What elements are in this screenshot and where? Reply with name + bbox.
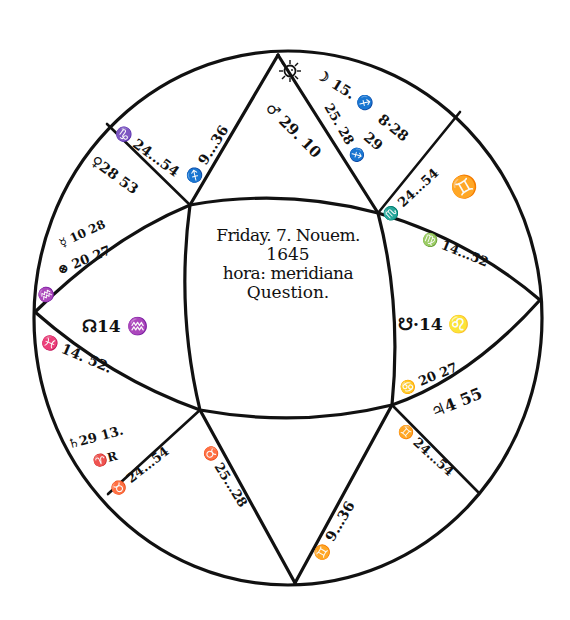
date-line: Friday. 7. Nouem. (192, 226, 384, 245)
sun-icon (279, 60, 301, 82)
hour-line: hora: meridiana (192, 264, 384, 283)
label-node-s: ☋·14 ♌ (398, 316, 470, 333)
question-line: Question. (192, 283, 384, 302)
label-node-n: ☊14 ♒ (82, 318, 148, 335)
chart-center-text: Friday. 7. Nouem. 1645 hora: meridiana Q… (192, 226, 384, 302)
year-line: 1645 (192, 245, 384, 264)
horary-chart (0, 0, 570, 620)
